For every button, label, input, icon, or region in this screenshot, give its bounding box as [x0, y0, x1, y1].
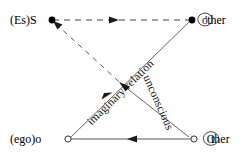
arrowhead-bottom-left: [127, 135, 137, 142]
edge-other-to-ego-bottom: [71, 135, 192, 142]
edge-label-unconscious: unconscious: [141, 73, 176, 132]
edge-line-center-dashed: [56, 24, 126, 88]
edge-s-to-other-top: [53, 16, 190, 23]
node-label-ego-o: (ego)o: [10, 133, 41, 145]
node-marker-es-s[interactable]: [49, 17, 56, 24]
node-marker-big-Other[interactable]: [191, 136, 197, 142]
schema-l-diagram: o O imaginary relation unconscious (Es)S…: [0, 0, 247, 160]
node-label-big-Other: ther: [211, 133, 230, 145]
edge-label-imaginary-relation: imaginary relation: [84, 57, 156, 128]
node-marker-ego-o[interactable]: [65, 136, 71, 142]
edge-s-to-center-dashed: [53, 21, 126, 88]
arrowhead-top-right: [109, 16, 119, 23]
node-label-es-s: (Es)S: [10, 14, 37, 26]
node-label-little-other: 'ther: [205, 14, 226, 26]
node-marker-little-other[interactable]: [189, 17, 196, 24]
